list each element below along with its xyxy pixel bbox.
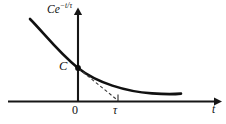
- time-constant-label: τ: [113, 105, 117, 117]
- x-axis-label: t: [212, 104, 215, 116]
- curve-y-intercept-dot: [75, 65, 81, 71]
- y-axis-arrowhead: [74, 8, 82, 16]
- initial-value-label: C: [59, 60, 67, 73]
- y-axis-label-base: Ce: [47, 3, 60, 15]
- decay-curve: [30, 19, 181, 94]
- origin-label: 0: [72, 104, 78, 116]
- exponential-decay-figure: Ce−t/τ C 0 τ t: [0, 0, 226, 124]
- y-axis-label: Ce−t/τ: [47, 2, 72, 15]
- y-axis-label-exponent: −t/τ: [60, 1, 72, 10]
